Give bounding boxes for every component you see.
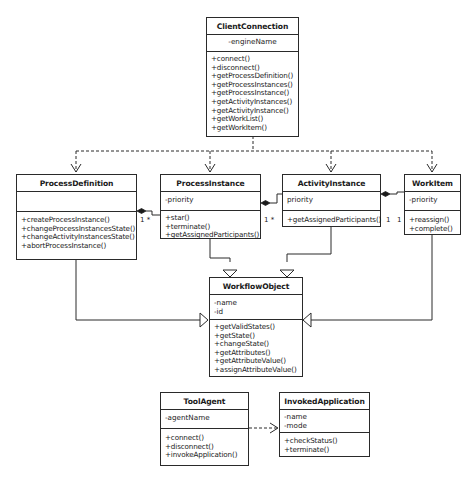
multiplicity-label: 1 xyxy=(386,216,390,224)
attribute: -priority xyxy=(409,195,456,204)
class-operations: +connect() +disconnect() +invokeApplicat… xyxy=(161,429,248,463)
class-name: ToolAgent xyxy=(161,393,248,410)
class-process-instance: ProcessInstance -priority +star() +termi… xyxy=(160,174,261,239)
class-workflow-object: WorkflowObject -name -id +getValidStates… xyxy=(209,277,303,377)
generalization-triangle xyxy=(303,313,311,327)
class-operations: +connect() +disconnect() +getProcessDefi… xyxy=(207,52,298,135)
class-attributes: -priority xyxy=(161,192,260,211)
attribute: -mode xyxy=(284,421,365,430)
composition-diamond xyxy=(381,192,390,197)
class-operations: +checkStatus() +terminate() xyxy=(280,433,369,457)
class-name: InvokedApplication xyxy=(280,393,369,410)
attribute: -priority xyxy=(165,195,256,204)
multiplicity-value: * xyxy=(147,216,151,224)
operation: +assignAttributeValue() xyxy=(214,366,298,375)
multiplicity-value: * xyxy=(271,216,275,224)
multiplicity-label: 1 * xyxy=(264,216,274,224)
multiplicity-value: 1 xyxy=(386,216,390,224)
class-invoked-application: InvokedApplication -name -mode +checkSta… xyxy=(279,392,370,457)
attribute: -name xyxy=(214,298,298,307)
class-work-item: WorkItem -priority +reassign() +complete… xyxy=(404,174,461,235)
class-client-connection: ClientConnection -engineName +connect() … xyxy=(206,17,299,137)
class-name: ProcessInstance xyxy=(161,175,260,192)
class-attributes: -name -mode xyxy=(280,410,369,433)
attribute: priority xyxy=(287,195,376,204)
multiplicity-value: 1 xyxy=(397,216,401,224)
class-name: WorkItem xyxy=(405,175,460,192)
attribute: -name xyxy=(284,412,365,421)
attribute: -agentName xyxy=(165,413,244,422)
composition-diamond xyxy=(137,209,146,214)
class-name: WorkflowObject xyxy=(210,278,302,295)
class-process-definition: ProcessDefinition +createProcessInstance… xyxy=(16,174,137,260)
multiplicity-label: 1 xyxy=(397,216,401,224)
class-tool-agent: ToolAgent -agentName +connect() +disconn… xyxy=(160,392,249,466)
class-name: ActivityInstance xyxy=(283,175,380,192)
class-name: ClientConnection xyxy=(207,18,298,35)
class-attributes xyxy=(17,192,136,212)
operation: +getWorkItem() xyxy=(211,124,294,133)
class-operations: +star() +terminate() +getAssignedPartici… xyxy=(161,211,260,243)
multiplicity-label: 1 * xyxy=(140,216,150,224)
class-attributes: -name -id xyxy=(210,295,302,320)
operation: +abortProcessInstance() xyxy=(21,242,132,251)
operation: +getAssignedParticipants() xyxy=(287,216,376,225)
class-operations: +getValidStates() +getState() +changeSta… xyxy=(210,320,302,378)
class-operations: +createProcessInstance() +changeProcessI… xyxy=(17,212,136,253)
class-operations: +getAssignedParticipants() xyxy=(283,211,380,228)
operation: +terminate() xyxy=(284,446,365,455)
class-operations: +reassign() +complete() xyxy=(405,211,460,236)
generalization-triangle xyxy=(200,313,208,327)
attribute: -engineName xyxy=(211,37,294,46)
operation: +getAssignedParticipants() xyxy=(165,231,256,240)
class-attributes: -engineName xyxy=(207,35,298,52)
generalization-triangle xyxy=(223,270,237,277)
class-name: ProcessDefinition xyxy=(17,175,136,192)
generalization-triangle xyxy=(280,270,294,277)
operation: +complete() xyxy=(409,225,456,234)
class-activity-instance: ActivityInstance priority +getAssignedPa… xyxy=(282,174,381,227)
attribute: -id xyxy=(214,307,298,316)
operation: +invokeApplication() xyxy=(165,451,244,460)
class-attributes: -agentName xyxy=(161,410,248,429)
class-attributes: -priority xyxy=(405,192,460,211)
composition-diamond xyxy=(261,201,270,206)
class-attributes: priority xyxy=(283,192,380,211)
